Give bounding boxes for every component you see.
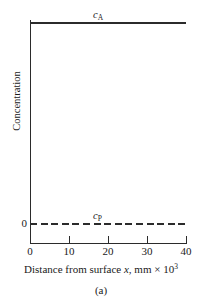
series-ca-subscript: A	[98, 13, 103, 22]
series-ca-label: cA	[93, 9, 103, 21]
y-axis-line	[30, 20, 31, 244]
x-axis-tick-label-0: 0	[15, 245, 45, 258]
x-axis-tick-30	[147, 236, 148, 243]
series-ca-line	[30, 22, 186, 24]
x-axis-title: Distance from surface x, mm × 103	[0, 262, 202, 278]
x-axis-title-trail: , mm × 10	[129, 263, 174, 275]
x-axis-tick-0	[30, 236, 31, 243]
x-axis-tick-20	[108, 236, 109, 243]
y-axis-tick-label-zero: 0	[14, 217, 27, 230]
series-cp-line	[30, 223, 186, 225]
series-ca-symbol: c	[93, 9, 98, 20]
x-axis-tick-label-30: 30	[132, 245, 162, 258]
series-cp-label: cP	[93, 210, 102, 222]
x-axis-title-exponent: 3	[174, 262, 178, 271]
series-cp-subscript: P	[98, 214, 102, 223]
x-axis-title-lead: Distance from surface	[24, 263, 124, 275]
x-axis-tick-label-10: 10	[54, 245, 84, 258]
x-axis-tick-10	[69, 236, 70, 243]
x-axis-tick-40	[186, 236, 187, 243]
x-axis-tick-label-40: 40	[171, 245, 201, 258]
series-cp-symbol: c	[93, 210, 98, 221]
concentration-profile-figure: cA cP 0 Concentration 0 10 20 30 40 Dist…	[0, 0, 202, 305]
x-axis-tick-label-20: 20	[93, 245, 123, 258]
figure-caption: (a)	[0, 283, 202, 297]
y-axis-title: Concentration	[11, 41, 23, 161]
